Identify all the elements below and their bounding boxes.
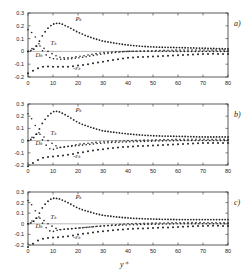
x-tick-label: 30 bbox=[100, 168, 106, 174]
x-tick-label: 60 bbox=[175, 168, 181, 174]
x-tick-label: 80 bbox=[225, 80, 231, 86]
y-tick-label: -0.2 bbox=[15, 162, 24, 168]
series-pk bbox=[27, 22, 229, 52]
y-tick-label: -0.2 bbox=[15, 74, 24, 80]
x-tick-label: 40 bbox=[125, 80, 131, 86]
y-tick-label: 0.3 bbox=[16, 101, 24, 107]
y-tick-label: -0.1 bbox=[15, 150, 24, 156]
figure: 0.30.20.10-0.1-0.201020304050607080PₖTₖD… bbox=[0, 0, 251, 278]
label-pk: Pₖ bbox=[75, 15, 83, 22]
x-axis-label: y⁺ bbox=[120, 260, 128, 269]
series-dk bbox=[27, 113, 229, 150]
x-tick-label: 50 bbox=[150, 168, 156, 174]
x-tick-label: 20 bbox=[75, 248, 81, 254]
panel-label: a) bbox=[234, 19, 241, 28]
series-dk bbox=[27, 200, 229, 233]
label-tk: Tₖ bbox=[51, 129, 58, 136]
y-tick-label: 0.1 bbox=[16, 125, 24, 131]
series-k bbox=[27, 53, 229, 74]
panel-label: b) bbox=[234, 110, 241, 119]
y-tick-label: 0.2 bbox=[16, 113, 24, 119]
x-tick-label: 20 bbox=[75, 80, 81, 86]
label-dk: Dₖ bbox=[35, 51, 44, 58]
label-dk: Dₖ bbox=[35, 222, 44, 229]
y-tick-label: 0 bbox=[21, 48, 24, 54]
label-epsk: -εₖ bbox=[73, 64, 81, 71]
y-tick-label: 0 bbox=[21, 221, 24, 227]
x-tick-label: 0 bbox=[26, 168, 29, 174]
y-tick-label: 0.3 bbox=[16, 189, 24, 195]
x-tick-label: 50 bbox=[150, 248, 156, 254]
label-epsk: -εₖ bbox=[73, 152, 81, 159]
label-pk: Pₖ bbox=[75, 193, 83, 200]
y-tick-label: 0 bbox=[21, 138, 24, 144]
panel-0: 0.30.20.10-0.1-0.201020304050607080PₖTₖD… bbox=[15, 10, 241, 86]
x-tick-label: 0 bbox=[26, 80, 29, 86]
x-tick-label: 80 bbox=[225, 248, 231, 254]
panel-1: 0.30.20.10-0.1-0.201020304050607080PₖTₖD… bbox=[15, 101, 241, 174]
y-tick-label: 0.1 bbox=[16, 36, 24, 42]
label-pk: Pₖ bbox=[75, 106, 83, 113]
x-tick-label: 30 bbox=[100, 248, 106, 254]
x-tick-label: 40 bbox=[125, 168, 131, 174]
x-tick-label: 10 bbox=[50, 248, 56, 254]
panel-2: 0.30.20.10-0.1-0.201020304050607080PₖTₖD… bbox=[15, 189, 241, 254]
x-tick-label: 80 bbox=[225, 168, 231, 174]
x-tick-label: 60 bbox=[175, 80, 181, 86]
y-tick-label: 0.2 bbox=[16, 200, 24, 206]
x-tick-label: 70 bbox=[200, 248, 206, 254]
y-tick-label: 0.2 bbox=[16, 23, 24, 29]
y-tick-label: 0.3 bbox=[16, 10, 24, 16]
series-pk bbox=[27, 197, 229, 224]
label-epsk: -εₖ bbox=[73, 233, 81, 240]
x-tick-label: 10 bbox=[50, 80, 56, 86]
x-tick-label: 20 bbox=[75, 168, 81, 174]
y-tick-label: -0.1 bbox=[15, 61, 24, 67]
label-dk: Dₖ bbox=[35, 139, 44, 146]
x-tick-label: 60 bbox=[175, 248, 181, 254]
x-tick-label: 10 bbox=[50, 168, 56, 174]
x-tick-label: 70 bbox=[200, 168, 206, 174]
budget-chart: 0.30.20.10-0.1-0.201020304050607080PₖTₖD… bbox=[0, 0, 251, 278]
x-tick-label: 40 bbox=[125, 248, 131, 254]
label-tk: Tₖ bbox=[51, 39, 58, 46]
panel-label: c) bbox=[234, 198, 241, 207]
x-tick-label: 0 bbox=[26, 248, 29, 254]
y-tick-label: -0.2 bbox=[15, 242, 24, 248]
y-tick-label: -0.1 bbox=[15, 231, 24, 237]
label-tk: Tₖ bbox=[51, 213, 58, 220]
x-tick-label: 50 bbox=[150, 80, 156, 86]
y-tick-label: 0.1 bbox=[16, 210, 24, 216]
x-tick-label: 30 bbox=[100, 80, 106, 86]
series-pk bbox=[27, 110, 229, 141]
x-tick-label: 70 bbox=[200, 80, 206, 86]
